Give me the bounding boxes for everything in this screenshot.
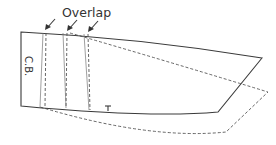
overlap-arrow-2	[67, 20, 77, 31]
slash-line-1	[40, 33, 43, 107]
dashed-outline	[40, 33, 268, 134]
slash-line-2	[63, 33, 66, 108]
pattern-piece-outline	[21, 32, 262, 114]
overlap-label: Overlap	[62, 5, 111, 20]
center-back-label: C.B.	[23, 56, 34, 76]
overlap-line-2	[66, 33, 67, 108]
pattern-diagram: Overlap C.B.	[0, 0, 276, 145]
t-mark	[105, 106, 111, 111]
overlap-arrow-1	[45, 19, 55, 30]
overlap-line-1	[45, 33, 46, 107]
overlap-arrow-3	[88, 21, 98, 32]
